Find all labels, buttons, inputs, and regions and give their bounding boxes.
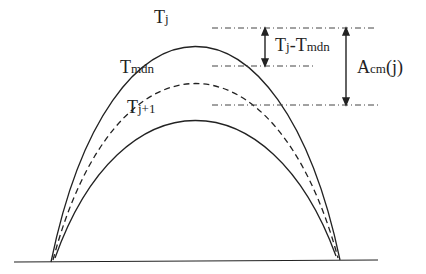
label-tj: Tj (154, 8, 169, 26)
diagram-canvas (0, 0, 426, 274)
label-diff: Tj-Tmdn (275, 36, 330, 54)
baseline (14, 260, 378, 262)
curve-tj (51, 46, 340, 262)
curve-tj1 (55, 120, 336, 258)
label-acm: Acm(j) (357, 58, 403, 76)
label-tmdn: Tmdn (120, 58, 154, 76)
label-tj1: Tj+1 (127, 98, 155, 116)
curve-tmdn (53, 83, 338, 260)
